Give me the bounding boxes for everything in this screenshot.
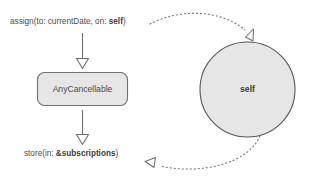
edge-assign-to-self <box>150 13 254 41</box>
arrowhead-open-triangle-down-box <box>77 59 89 69</box>
label-store: store(in: &subscriptions) <box>24 150 118 158</box>
label-store-suffix: ) <box>115 149 118 158</box>
label-assign: assign(to: currentDate, on: self) <box>10 18 126 26</box>
label-assign-suffix: ) <box>123 17 126 26</box>
edge-assign-to-box <box>77 33 89 69</box>
arrowhead-open-triangle-down-store <box>77 135 89 145</box>
label-assign-bold: self <box>109 17 123 26</box>
node-any-cancellable-label: AnyCancellable <box>37 72 128 106</box>
diagram-canvas: assign(to: currentDate, on: self) store(… <box>0 0 324 189</box>
label-store-prefix: store(in: <box>24 149 56 158</box>
node-self-label: self <box>200 82 295 96</box>
arrowhead-open-triangle-to-store <box>145 158 156 168</box>
label-assign-prefix: assign(to: currentDate, on: <box>10 17 109 26</box>
label-store-bold: &subscriptions <box>56 149 116 158</box>
arrowhead-open-triangle-to-self <box>246 29 254 41</box>
edge-box-to-store <box>77 110 89 145</box>
edge-self-to-store <box>145 136 260 169</box>
